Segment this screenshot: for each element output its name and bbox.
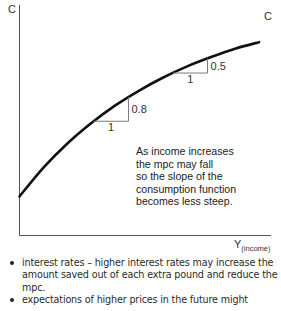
bullet-dot-icon <box>10 298 14 302</box>
y-axis-label: C <box>8 3 16 15</box>
annotation-note: As income increases the mpc may fall so … <box>136 145 236 207</box>
bullet-item: interest rates – higher interest rates m… <box>10 257 278 294</box>
consumption-function-chart: C Y(income) C 1 0.8 1 0.5 As income incr… <box>0 0 281 255</box>
x-axis-label: Y(income) <box>234 238 271 253</box>
bullet-text: interest rates – higher interest rates m… <box>22 257 277 293</box>
note-line: so the slope of the <box>136 170 223 182</box>
slope-triangle-1-run-label: 1 <box>108 121 114 133</box>
note-line: As income increases <box>136 145 234 157</box>
note-line: consumption function <box>136 183 236 195</box>
note-line: the mpc may fall <box>136 158 213 170</box>
slope-triangle-1-rise-label: 0.8 <box>131 103 146 115</box>
bullet-list: interest rates – higher interest rates m… <box>10 257 278 307</box>
x-axis-label-subscript: (income) <box>241 244 271 253</box>
bullet-item: expectations of higher prices in the fut… <box>10 294 278 306</box>
slope-triangle-2-rise-label: 0.5 <box>211 60 226 72</box>
slope-triangle-2-run-label: 1 <box>187 73 193 85</box>
bullet-dot-icon <box>10 261 14 265</box>
curve-label: C <box>264 10 272 22</box>
bullet-text: expectations of higher prices in the fut… <box>22 294 248 305</box>
note-line: becomes less steep. <box>136 195 233 207</box>
